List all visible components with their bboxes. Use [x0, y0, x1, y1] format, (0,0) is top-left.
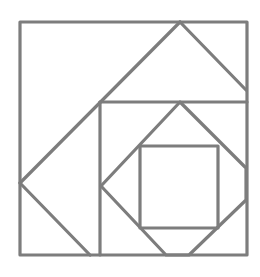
- inner-square: [140, 146, 218, 228]
- diamond: [101, 102, 246, 255]
- large-triangle-right-edge: [180, 22, 246, 90]
- bottom-left-diagonal: [20, 183, 90, 255]
- geometric-diagram: [0, 0, 260, 277]
